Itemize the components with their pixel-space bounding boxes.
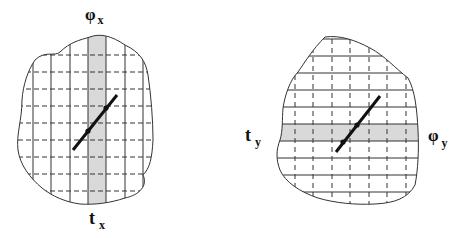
label-phi-x: φx <box>85 5 104 27</box>
right-ray-point-exit <box>340 139 345 144</box>
label-t-y: ty <box>245 125 261 149</box>
left-ray-point-exit <box>103 105 108 110</box>
label-phi-y: φy <box>428 126 448 150</box>
left-outline <box>18 35 153 204</box>
right-figure: ty φy <box>245 30 448 210</box>
left-figure: φx tx <box>10 5 160 232</box>
right-outline <box>277 37 418 205</box>
left-grid <box>10 30 160 210</box>
left-vertical-lines <box>33 30 143 210</box>
right-grid <box>270 30 430 210</box>
right-ray-point-entry <box>354 122 359 127</box>
diagram-canvas: φx tx <box>0 0 460 238</box>
label-t-x: tx <box>89 208 105 232</box>
right-vertical-dashed-lines <box>295 30 406 210</box>
left-ray-point-entry <box>85 128 90 133</box>
